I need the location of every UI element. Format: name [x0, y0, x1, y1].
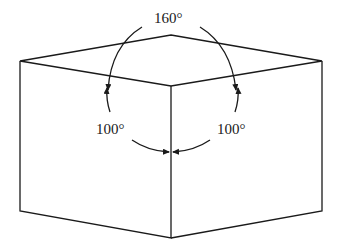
right-face [171, 61, 322, 238]
top-face [20, 35, 322, 86]
left-face [20, 61, 171, 238]
cube-diagram: 160° 100° 100° [0, 0, 340, 249]
label-160: 160° [154, 10, 183, 26]
label-100-left: 100° [96, 121, 125, 137]
label-100-right: 100° [217, 121, 246, 137]
arc-top-left-lower [107, 88, 110, 112]
arc-top-right-lower [235, 88, 238, 112]
arc-bottom-left [132, 140, 169, 152]
cube-edges [20, 35, 322, 238]
arc-bottom-right [173, 140, 210, 152]
